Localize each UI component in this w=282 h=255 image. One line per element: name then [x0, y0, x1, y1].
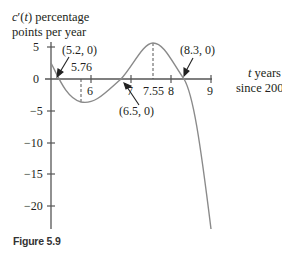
annotation-root-83: (8.3, 0) — [180, 43, 215, 57]
y-axis-title-line2: points per year — [12, 25, 89, 40]
x-tick-label-7: 7 — [127, 84, 133, 98]
y-axis-title-line1: c′(t) percentage — [12, 10, 89, 25]
annotation-min-576: 5.76 — [71, 60, 92, 74]
y-tick-label-m10: −10 — [24, 136, 43, 150]
x-axis-title-line2: since 2000 — [236, 81, 282, 96]
x-tick-label-755: 7.55 — [143, 84, 164, 98]
y-axis-title: c′(t) percentage points per year — [12, 10, 89, 40]
x-tick-label-8: 8 — [168, 84, 174, 98]
x-tick-label-6: 6 — [87, 84, 93, 98]
y-tick-label-0: 0 — [33, 72, 39, 86]
x-axis-title-line1: t years — [236, 66, 282, 81]
y-tick-label-5: 5 — [33, 40, 39, 54]
y-tick-label-m15: −15 — [24, 167, 43, 181]
figure-caption: Figure 5.9 — [13, 235, 61, 247]
annotation-root-65: (6.5, 0) — [119, 104, 154, 118]
annotation-root-52: (5.2, 0) — [62, 43, 97, 57]
y-tick-label-m5: −5 — [30, 104, 43, 118]
x-axis-title-text: t years — [248, 66, 281, 80]
x-axis-title: t years since 2000 — [236, 66, 282, 96]
x-tick-label-9: 9 — [207, 84, 213, 98]
y-tick-label-m20: −20 — [24, 199, 43, 213]
